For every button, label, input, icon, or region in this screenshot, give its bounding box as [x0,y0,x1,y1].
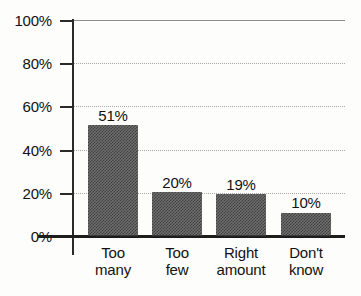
chart-figure: 100% 80% 60% 40% 20% 0% 51% 20% 19% 10% … [0,0,361,296]
ytick-label-60: 60% [0,98,52,115]
plot-area: 100% 80% 60% 40% 20% 0% 51% 20% 19% 10% … [0,0,361,296]
y-axis-line [72,19,74,255]
bar-too-many [88,125,138,236]
ytick-label-100: 100% [0,12,52,29]
category-label-dont-know-line2: know [268,261,344,278]
bar-value-right-amount: 19% [206,176,276,193]
category-label-dont-know: Don't know [268,244,344,278]
ytick-label-80: 80% [0,55,52,72]
bar-too-few [152,192,202,236]
bar-dont-know [281,213,331,236]
gridline-80 [72,63,345,65]
bar-right-amount [216,194,266,236]
bar-value-too-few: 20% [142,174,212,191]
ytick-label-40: 40% [0,142,52,159]
ytick-label-20: 20% [0,185,52,202]
bar-value-dont-know: 10% [271,194,341,211]
bar-value-too-many: 51% [78,107,148,124]
gridline-100 [72,20,345,22]
category-label-dont-know-line1: Don't [268,244,344,261]
